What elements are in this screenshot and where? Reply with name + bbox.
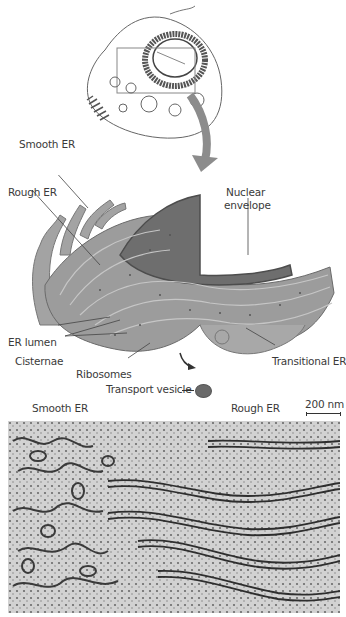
label-transitional-er: Transitional ER (272, 355, 346, 367)
label-nuclear-envelope-2: envelope (224, 199, 271, 211)
micrograph-texture-icon (8, 421, 340, 613)
label-er-lumen: ER lumen (8, 336, 57, 348)
label-ribosomes: Ribosomes (76, 368, 132, 380)
er-3d-icon (0, 175, 345, 405)
label-cisternae: Cisternae (15, 355, 63, 367)
vesicle-line (182, 390, 194, 391)
label-micrograph-rough-er: Rough ER (231, 402, 280, 414)
label-nuclear-envelope-1: Nuclear (226, 186, 265, 198)
label-transport-vesicle: Transport vesicle (106, 383, 191, 395)
electron-micrograph (8, 421, 340, 613)
transport-vesicle-icon (195, 384, 212, 398)
label-micrograph-smooth-er: Smooth ER (32, 402, 88, 414)
scale-bar-label: 200 nm (305, 398, 344, 410)
label-smooth-er: Smooth ER (19, 138, 75, 150)
label-rough-er: Rough ER (8, 186, 57, 198)
er-illustration (0, 175, 345, 405)
scale-bar (306, 412, 341, 416)
